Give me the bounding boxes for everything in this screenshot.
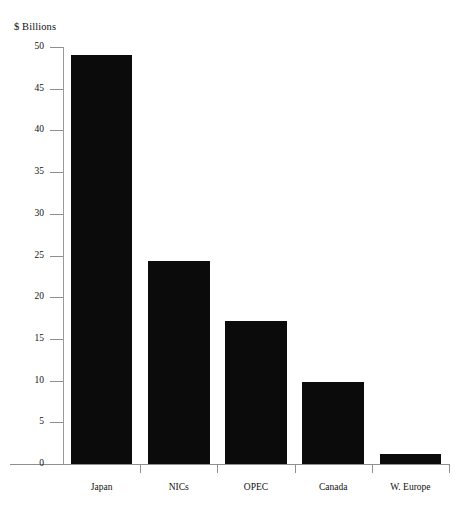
x-axis-tick-mark — [217, 464, 218, 473]
y-axis-tick: 0 — [0, 464, 63, 465]
x-axis-category-label: Canada — [295, 481, 372, 494]
x-axis-tick-mark — [140, 464, 141, 473]
y-axis-tick-mark — [50, 464, 63, 465]
bar — [380, 454, 442, 464]
bar — [148, 261, 210, 465]
x-axis-category-label: NICs — [140, 481, 217, 494]
bar-chart: $ Billions 05101520253035404550 JapanNIC… — [0, 0, 473, 520]
bar — [302, 382, 364, 464]
bar — [225, 321, 287, 464]
x-axis-tick-mark — [449, 464, 450, 473]
x-axis-tick-mark — [372, 464, 373, 473]
x-axis-tick-mark — [295, 464, 296, 473]
bars-layer — [0, 0, 473, 464]
x-axis-category-label: W. Europe — [372, 481, 449, 494]
x-axis-line — [10, 464, 450, 465]
x-axis-category-label: Japan — [63, 481, 140, 494]
bar — [71, 55, 133, 464]
x-axis-category-label: OPEC — [217, 481, 294, 494]
